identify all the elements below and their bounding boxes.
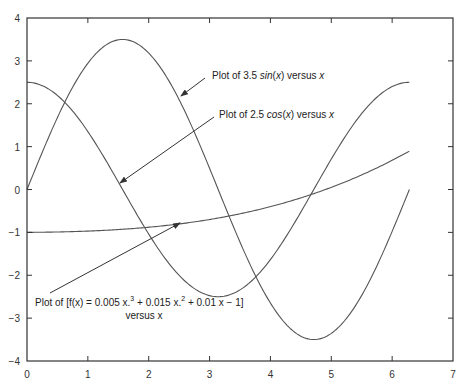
annotation-poly: Plot of [f(x) = 0.005 x.3 + 0.015 x.2 + … [35,223,244,321]
y-tick-label: −1 [9,227,21,238]
y-tick-label: −2 [9,270,21,281]
y-tick-label: 2 [14,99,20,110]
annotation-poly-label-line1: Plot of [f(x) = 0.005 x.3 + 0.015 x.2 + … [35,295,244,308]
x-tick-label: 7 [450,369,456,380]
annotation-cos-label: Plot of 2.5 cos(x) versus x [219,109,335,120]
x-tick-label: 2 [146,369,152,380]
annotation-sin: Plot of 3.5 sin(x) versus x [181,70,325,96]
y-tick-label: 0 [14,185,20,196]
x-tick-label: 5 [329,369,335,380]
y-tick-label: 4 [14,13,20,24]
arrow-sin [181,78,205,96]
y-tick-label: 1 [14,142,20,153]
y-tick-label: −3 [9,313,21,324]
x-tick-label: 3 [207,369,213,380]
plot-curves [27,39,409,339]
x-tick-label: 6 [389,369,395,380]
x-tick-label: 0 [24,369,30,380]
line-chart: 01234567 43210−1−2−3−4 Plot of 3.5 sin(x… [0,0,462,387]
y-tick-label: 3 [14,56,20,67]
x-axis-tick-labels: 01234567 [24,369,456,380]
annotation-poly-label-line2: versus x [125,310,162,321]
arrow-poly [50,223,180,293]
y-tick-label: −4 [9,356,21,367]
y-axis-tick-labels: 43210−1−2−3−4 [9,13,21,367]
curve-sin [27,39,409,339]
arrow-cos [120,117,214,183]
x-tick-label: 1 [85,369,91,380]
x-tick-label: 4 [268,369,274,380]
annotation-cos: Plot of 2.5 cos(x) versus x [120,109,335,183]
annotation-sin-label: Plot of 3.5 sin(x) versus x [212,70,325,81]
curve-poly [27,151,409,232]
